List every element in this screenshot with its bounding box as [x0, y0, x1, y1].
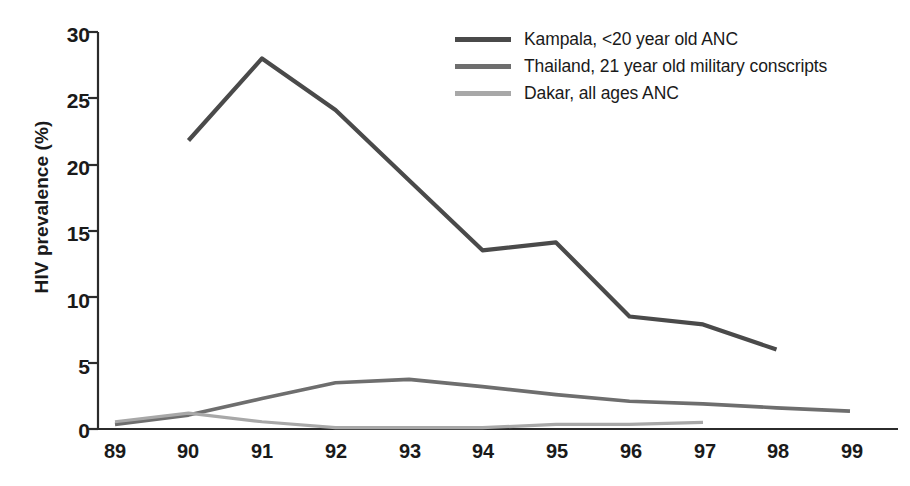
legend-label-thailand: Thailand, 21 year old military conscript…: [524, 56, 827, 77]
legend-swatch-thailand: [455, 64, 511, 69]
legend: Kampala, <20 year old ANC Thailand, 21 y…: [455, 26, 827, 107]
legend-item-dakar: Dakar, all ages ANC: [455, 80, 827, 107]
legend-label-dakar: Dakar, all ages ANC: [524, 83, 679, 104]
hiv-prevalence-line-chart: HIV prevalence (%) 30 25 20 15 10 5 0 89…: [0, 0, 910, 486]
y-axis-ticks: [88, 32, 98, 429]
series-line-dakar: [115, 413, 703, 428]
series-layer: [115, 58, 850, 427]
legend-label-kampala: Kampala, <20 year old ANC: [524, 29, 738, 50]
legend-swatch-kampala: [455, 37, 511, 42]
legend-swatch-dakar: [455, 91, 511, 96]
legend-item-thailand: Thailand, 21 year old military conscript…: [455, 53, 827, 80]
legend-item-kampala: Kampala, <20 year old ANC: [455, 26, 827, 53]
